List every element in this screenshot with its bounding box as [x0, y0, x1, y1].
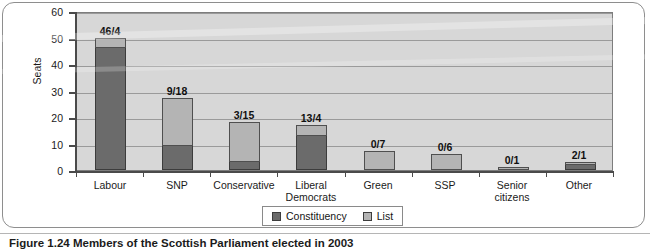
figure-caption-bar: Figure 1.24 Members of the Scottish Parl… [0, 233, 650, 251]
bar-value-label: 9/18 [137, 86, 217, 97]
y-axis-label: 30 [23, 87, 63, 98]
legend-swatch-list-icon [363, 212, 372, 221]
bar-segment-constituency[interactable] [162, 146, 193, 170]
y-axis-title: Seats [31, 36, 43, 106]
bar-segment-constituency[interactable] [296, 136, 327, 170]
y-axis-tick [69, 65, 76, 67]
bar-conservative[interactable] [229, 122, 260, 170]
bar-senior-citizens[interactable] [498, 167, 529, 170]
x-axis-tick [277, 172, 278, 177]
bar-value-label: 2/1 [539, 150, 619, 161]
x-axis-label-line: Democrats [266, 191, 356, 203]
gridline [77, 66, 612, 67]
y-axis-label: 40 [23, 60, 63, 71]
gridline [77, 13, 612, 14]
bar-snp[interactable] [162, 98, 193, 170]
legend-label-constituency: Constituency [286, 211, 347, 222]
bar-segment-constituency[interactable] [229, 162, 260, 170]
bar-ssp[interactable] [431, 154, 462, 170]
x-axis-tick [613, 172, 614, 177]
x-axis-label-line: Other [534, 179, 624, 191]
bar-green[interactable] [364, 151, 395, 170]
x-axis-category-label: Other [534, 179, 624, 191]
y-axis-tick [69, 92, 76, 94]
y-axis-label: 60 [23, 7, 63, 18]
bar-segment-constituency[interactable] [565, 165, 596, 170]
x-axis-tick [345, 172, 346, 177]
bar-segment-list[interactable] [95, 38, 126, 49]
x-axis-tick [546, 172, 547, 177]
bar-segment-list[interactable] [229, 122, 260, 162]
bar-segment-constituency[interactable] [95, 48, 126, 170]
bar-value-label: 46/4 [70, 26, 150, 37]
y-axis-label: 0 [23, 166, 63, 177]
bar-segment-list[interactable] [364, 151, 395, 170]
x-axis-tick [412, 172, 413, 177]
legend-item-constituency: Constituency [272, 211, 347, 222]
figure-frame: 0102030405060 LabourSNPConservativeLiber… [2, 2, 645, 228]
bar-labour[interactable] [95, 38, 126, 170]
bar-segment-list[interactable] [296, 125, 327, 136]
legend-label-list: List [377, 211, 393, 222]
y-axis-label: 20 [23, 113, 63, 124]
x-axis-tick [143, 172, 144, 177]
legend-item-list: List [363, 211, 393, 222]
y-axis-tick [69, 118, 76, 120]
bar-value-label: 0/6 [405, 142, 485, 153]
x-axis-tick [210, 172, 211, 177]
figure-caption: Figure 1.24 Members of the Scottish Parl… [9, 237, 353, 249]
y-axis-tick [69, 171, 76, 173]
y-axis-label: 50 [23, 34, 63, 45]
y-axis-tick [69, 12, 76, 14]
x-axis-tick [479, 172, 480, 177]
gridline [77, 40, 612, 41]
bar-liberal-democrats[interactable] [296, 125, 327, 170]
y-axis-label: 10 [23, 140, 63, 151]
bar-segment-list[interactable] [162, 98, 193, 146]
legend-swatch-constituency-icon [272, 212, 281, 221]
bar-segment-list[interactable] [498, 167, 529, 170]
x-axis-label-line: citizens [467, 191, 557, 203]
y-axis-tick [69, 39, 76, 41]
bar-other[interactable] [565, 162, 596, 170]
x-axis-tick [76, 172, 77, 177]
y-axis-tick [69, 145, 76, 147]
bar-value-label: 13/4 [271, 113, 351, 124]
bar-segment-list[interactable] [431, 154, 462, 170]
chart-legend: Constituency List [262, 206, 403, 226]
